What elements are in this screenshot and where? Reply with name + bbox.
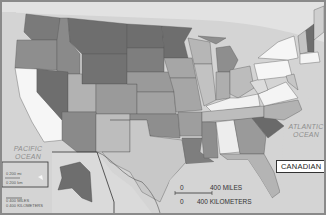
state-hi	[38, 175, 43, 180]
state-ma	[300, 52, 320, 64]
state-nd	[127, 24, 164, 48]
state-ar	[178, 112, 202, 136]
state-in	[216, 72, 230, 100]
hawaii-scale-km: 0 200 km	[6, 180, 22, 185]
scale-km: 400 KILOMETERS	[197, 198, 252, 206]
us-choropleth-map: PACIFIC OCEAN ATLANTIC OCEAN CANADIAN 0 …	[0, 0, 326, 215]
atlantic-label-line1: ATLANTIC	[286, 123, 326, 131]
state-wa	[24, 14, 60, 40]
map-graphic	[2, 2, 324, 213]
atlantic-label-line2: OCEAN	[286, 131, 326, 139]
state-nm	[96, 114, 130, 152]
state-ms	[202, 122, 218, 158]
atlantic-ocean-label: ATLANTIC OCEAN	[286, 123, 326, 139]
pacific-ocean-label: PACIFIC OCEAN	[6, 145, 50, 161]
legend-canadian-label: CANADIAN	[276, 160, 326, 173]
state-ny	[258, 36, 298, 60]
scale-zero-km: 0	[180, 198, 184, 206]
state-sd	[127, 48, 164, 72]
state-mn	[162, 26, 192, 58]
scale-zero-miles: 0	[180, 184, 184, 192]
state-wy	[82, 54, 127, 84]
state-ks	[137, 92, 176, 114]
state-or	[15, 40, 57, 70]
alaska-scale-km: 0 400 KILOMETERS	[6, 203, 43, 208]
state-az	[62, 112, 96, 152]
state-mt	[68, 18, 127, 54]
state-co	[96, 84, 137, 114]
scale-miles: 400 MILES	[210, 184, 242, 192]
pacific-label-line1: PACIFIC	[6, 145, 50, 153]
hawaii-scale-miles: 0 200 mi	[6, 171, 21, 176]
pacific-label-line2: OCEAN	[6, 153, 50, 161]
